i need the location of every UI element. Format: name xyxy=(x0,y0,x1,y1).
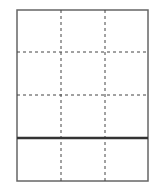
grid-diagram xyxy=(0,0,157,184)
horizontal-dashed-lines xyxy=(17,52,148,95)
grid-svg xyxy=(0,0,157,184)
